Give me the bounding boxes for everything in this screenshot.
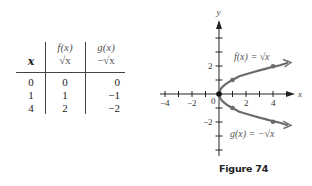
g-point-4-neg2 [271, 119, 276, 124]
sqrt-graph: x y −4 −2 0 2 4 2 −2 f(x) = √x g(x) = −√… [0, 0, 312, 186]
x-axis [160, 91, 295, 97]
y-tick-label-neg2: −2 [203, 117, 213, 127]
f-curve-label: f(x) = √x [234, 51, 270, 63]
g-curve [219, 94, 287, 125]
y-axis-label: y [216, 7, 221, 17]
g-curve-label: g(x) = −√x [230, 128, 275, 140]
origin-point [216, 91, 222, 97]
f-point-1-1 [230, 78, 235, 83]
x-tick-label-4: 4 [271, 98, 276, 108]
x-tick-label-0: 0 [211, 96, 216, 106]
g-point-1-neg1 [230, 106, 235, 111]
f-curve [219, 63, 287, 94]
y-tick-label-2: 2 [208, 61, 213, 71]
x-axis-label: x [297, 89, 302, 99]
x-tick-label-neg4: −4 [160, 98, 170, 108]
x-axis-arrow-icon [286, 91, 295, 97]
y-axis-arrow-icon [216, 20, 222, 29]
f-point-4-2 [271, 64, 276, 69]
x-tick-label-2: 2 [244, 98, 249, 108]
x-tick-label-neg2: −2 [187, 98, 197, 108]
figure-caption: Figure 74 [219, 163, 268, 174]
